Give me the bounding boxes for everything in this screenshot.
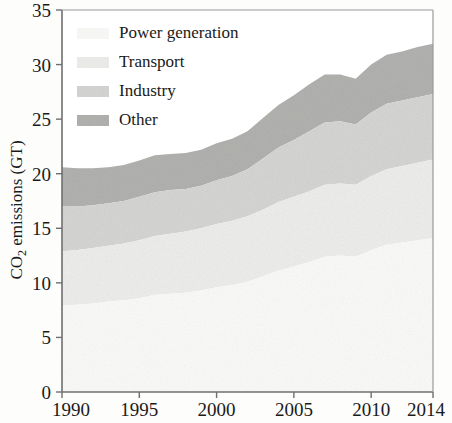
y-axis-title-co: CO	[7, 256, 26, 280]
y-tick-label-10: 10	[32, 273, 51, 294]
y-tick-label-15: 15	[32, 218, 51, 239]
x-tick-label-1995: 1995	[120, 399, 158, 420]
y-tick-label-5: 5	[42, 327, 52, 348]
chart-canvas: 05101520253035 199019952000200520102014 …	[0, 0, 452, 423]
x-tick-label-2010: 2010	[352, 399, 390, 420]
legend-label-industry: Industry	[119, 81, 176, 100]
y-tick-label-35: 35	[32, 0, 51, 21]
x-axis-ticks: 199019952000200520102014	[52, 392, 446, 420]
svg-text:CO2 emissions (GT): CO2 emissions (GT)	[7, 140, 29, 279]
y-tick-label-20: 20	[32, 164, 51, 185]
x-tick-label-2000: 2000	[198, 399, 236, 420]
legend-swatch-power-generation	[77, 28, 109, 39]
x-tick-label-2014: 2014	[407, 399, 446, 420]
y-tick-label-30: 30	[32, 55, 51, 76]
legend-label-transport: Transport	[119, 52, 185, 71]
y-axis-title: CO2 emissions (GT)	[7, 140, 29, 279]
x-tick-label-1990: 1990	[52, 399, 90, 420]
legend-swatch-other	[77, 115, 109, 126]
y-tick-label-25: 25	[32, 109, 51, 130]
y-axis-ticks: 05101520253035	[32, 0, 62, 403]
x-tick-label-2005: 2005	[275, 399, 313, 420]
y-axis-title-rest: emissions (GT)	[7, 140, 26, 250]
co2-emissions-stacked-area-chart: 05101520253035 199019952000200520102014 …	[0, 0, 452, 423]
legend-label-power-generation: Power generation	[119, 23, 239, 42]
y-tick-label-0: 0	[42, 382, 52, 403]
legend-label-other: Other	[119, 110, 158, 129]
legend-swatch-transport	[77, 57, 109, 68]
legend-swatch-industry	[77, 86, 109, 97]
